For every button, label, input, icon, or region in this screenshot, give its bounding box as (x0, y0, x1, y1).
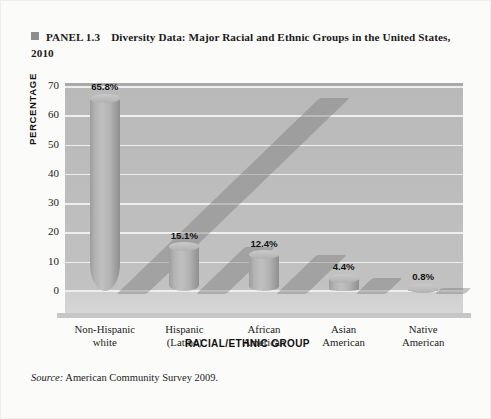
bar-value-label: 65.8% (70, 81, 140, 92)
gridline (65, 145, 463, 147)
bar-cap (90, 94, 120, 103)
bar-shadow (435, 288, 471, 294)
y-tick-label: 20 (29, 225, 59, 237)
bar-cap (408, 284, 438, 293)
y-tick-label: 10 (29, 255, 59, 267)
bar-value-label: 15.1% (149, 230, 219, 241)
bar-cap (329, 274, 359, 283)
chart-figure: PERCENTAGE 010203040506070 65.8%15.1%12.… (29, 83, 466, 356)
plot-floor-front (57, 313, 471, 318)
figure-page: PANEL 1.3Diversity Data: Major Racial an… (0, 0, 491, 419)
y-tick-label: 40 (29, 167, 59, 179)
x-tick-label-line: Hispanic (138, 323, 230, 336)
gridline (65, 115, 463, 117)
bar-value-label: 12.4% (229, 238, 299, 249)
bar[interactable] (90, 98, 120, 291)
gridline (65, 232, 463, 234)
square-bullet-icon (31, 32, 39, 40)
bar-value-label: 0.8% (388, 271, 458, 282)
x-axis-title: RACIAL/ETHNIC GROUP (29, 338, 466, 349)
bar[interactable] (408, 288, 438, 291)
gridline (65, 203, 463, 205)
bar-body (90, 98, 120, 291)
y-tick-label: 60 (29, 108, 59, 120)
plot-floor (65, 291, 463, 313)
bar[interactable] (249, 255, 279, 291)
source-prefix: Source: (31, 372, 63, 383)
source-note: Source: American Community Survey 2009. (31, 372, 218, 383)
y-tick-label: 50 (29, 138, 59, 150)
y-tick-label: 0 (29, 284, 59, 296)
bar[interactable] (329, 278, 359, 291)
panel-number: PANEL 1.3 (46, 31, 100, 43)
x-tick-label-line: Non-Hispanic (59, 323, 151, 336)
bar-body (249, 255, 279, 291)
y-tick-label: 30 (29, 196, 59, 208)
panel-caption: PANEL 1.3Diversity Data: Major Racial an… (31, 29, 467, 61)
x-tick-label-line: Native (377, 323, 469, 336)
bar-value-label: 4.4% (309, 261, 379, 272)
source-text: American Community Survey 2009. (63, 372, 218, 383)
y-tick-label: 70 (29, 79, 59, 91)
bar[interactable] (169, 247, 199, 291)
x-tick-label-line: Asian (298, 323, 390, 336)
x-tick-label-line: African (218, 323, 310, 336)
bar-body (169, 247, 199, 291)
